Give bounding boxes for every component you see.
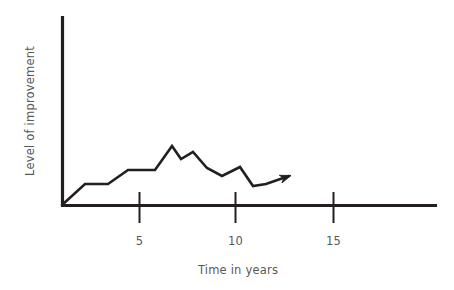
series-arrowhead-icon: [279, 172, 292, 183]
chart-figure: 5 10 15 Time in years Level of improveme…: [0, 0, 454, 290]
data-series-line: [62, 146, 289, 205]
x-tick-label-15: 15: [326, 234, 341, 248]
x-tick-label-5: 5: [136, 234, 144, 248]
y-axis-title: Level of improvement: [23, 46, 37, 176]
x-tick-label-10: 10: [228, 234, 243, 248]
line-chart-canvas: 5 10 15 Time in years Level of improveme…: [0, 0, 454, 290]
x-axis-title: Time in years: [197, 263, 278, 277]
